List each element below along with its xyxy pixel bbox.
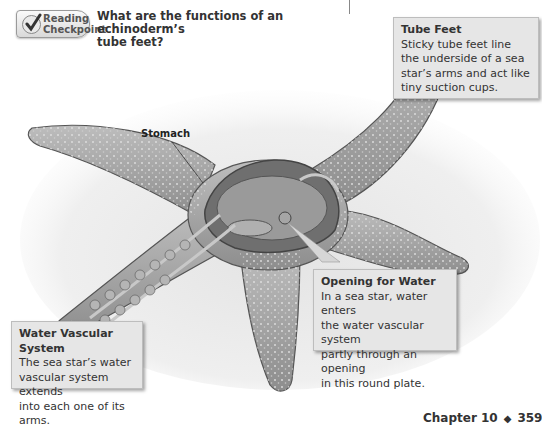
callout-title: Tube Feet	[401, 23, 531, 38]
page-number: 359	[517, 411, 542, 425]
chapter-label: Chapter 10	[423, 411, 498, 425]
callout-title: Water Vascular System	[19, 327, 135, 356]
callout-water-vascular-system: Water Vascular System The sea star’s wat…	[11, 321, 143, 389]
stomach-label: Stomach	[141, 128, 190, 139]
page-footer: Chapter 10◆359	[423, 411, 542, 425]
callout-tube-feet: Tube Feet Sticky tube feet line the unde…	[393, 17, 539, 99]
diamond-separator-icon: ◆	[504, 413, 512, 424]
callout-opening-for-water: Opening for Water In a sea star, water e…	[313, 269, 457, 351]
callout-title: Opening for Water	[321, 275, 449, 290]
